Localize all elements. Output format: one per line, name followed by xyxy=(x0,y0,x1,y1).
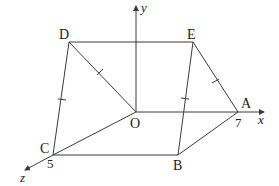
edge-dc xyxy=(53,42,69,155)
point-label-a: A xyxy=(241,96,252,111)
point-label-e: E xyxy=(187,27,196,42)
edge-ba xyxy=(178,112,238,155)
value-label-c: 5 xyxy=(47,156,54,171)
point-label-o: O xyxy=(130,116,140,131)
axis-label-x: x xyxy=(257,112,264,127)
axis-label-z: z xyxy=(19,170,25,185)
prism-diagram: D E O A B C 7 5 y x z xyxy=(0,0,279,186)
tick-mark-eb xyxy=(181,98,189,99)
point-label-d: D xyxy=(59,27,69,42)
value-label-a: 7 xyxy=(235,115,242,130)
tick-mark-dc xyxy=(58,99,66,100)
edge-do xyxy=(69,42,136,112)
point-label-c: C xyxy=(40,141,49,156)
axis-label-y: y xyxy=(139,0,147,15)
edge-oc xyxy=(53,112,136,155)
edge-ea xyxy=(193,42,238,112)
point-label-b: B xyxy=(173,158,182,173)
